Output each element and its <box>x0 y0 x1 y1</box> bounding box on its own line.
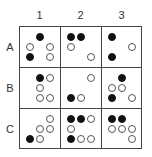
cell-b3 <box>101 67 142 108</box>
empty-circle-icon <box>46 125 54 133</box>
empty-circle-icon <box>46 94 54 102</box>
filled-circle-icon <box>67 135 75 143</box>
empty-circle-icon <box>77 135 85 143</box>
empty-circle-icon <box>46 115 54 123</box>
filled-circle-icon <box>67 33 75 41</box>
empty-circle-icon <box>46 74 54 82</box>
empty-circle-icon <box>108 84 116 92</box>
empty-circle-icon <box>108 125 116 133</box>
empty-circle-icon <box>77 94 85 102</box>
column-label-2: 2 <box>60 9 101 21</box>
column-label-1: 1 <box>19 9 60 21</box>
empty-circle-icon <box>67 125 75 133</box>
empty-circle-icon <box>128 135 136 143</box>
filled-circle-icon <box>77 33 85 41</box>
cell-b2 <box>60 67 101 108</box>
empty-circle-icon <box>128 43 136 51</box>
cell-c1 <box>19 108 60 149</box>
filled-circle-icon <box>108 53 116 61</box>
empty-circle-icon <box>87 74 95 82</box>
filled-circle-icon <box>108 94 116 102</box>
empty-circle-icon <box>87 53 95 61</box>
filled-circle-icon <box>36 33 44 41</box>
empty-circle-icon <box>87 135 95 143</box>
empty-circle-icon <box>26 43 34 51</box>
filled-circle-icon <box>26 135 34 143</box>
filled-circle-icon <box>118 74 126 82</box>
row-label-c: C <box>4 123 16 135</box>
filled-circle-icon <box>118 115 126 123</box>
empty-circle-icon <box>128 94 136 102</box>
row-label-a: A <box>4 41 16 53</box>
filled-circle-icon <box>36 74 44 82</box>
cell-c3 <box>101 108 142 149</box>
empty-circle-icon <box>87 115 95 123</box>
filled-circle-icon <box>108 33 116 41</box>
filled-circle-icon <box>26 53 34 61</box>
empty-circle-icon <box>36 135 44 143</box>
filled-circle-icon <box>77 115 85 123</box>
cell-a1 <box>19 26 60 67</box>
empty-circle-icon <box>36 94 44 102</box>
filled-circle-icon <box>108 115 116 123</box>
cell-c2 <box>60 108 101 149</box>
row-label-b: B <box>4 82 16 94</box>
filled-circle-icon <box>67 94 75 102</box>
grid-3x3 <box>19 26 142 149</box>
column-label-3: 3 <box>101 9 142 21</box>
empty-circle-icon <box>36 84 44 92</box>
empty-circle-icon <box>46 43 54 51</box>
empty-circle-icon <box>118 125 126 133</box>
filled-circle-icon <box>67 115 75 123</box>
cell-a2 <box>60 26 101 67</box>
empty-circle-icon <box>118 84 126 92</box>
empty-circle-icon <box>128 125 136 133</box>
empty-circle-icon <box>46 53 54 61</box>
cell-a3 <box>101 26 142 67</box>
cell-b1 <box>19 67 60 108</box>
empty-circle-icon <box>67 43 75 51</box>
empty-circle-icon <box>36 125 44 133</box>
